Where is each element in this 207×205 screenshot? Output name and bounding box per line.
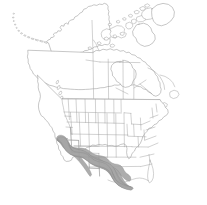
greenland-western-edge bbox=[152, 3, 175, 25]
distribution-map-figure: North America Distribution Map bbox=[0, 0, 207, 205]
north-america-map-svg bbox=[0, 0, 207, 205]
alaska bbox=[47, 3, 111, 57]
aleutian-islands bbox=[12, 13, 47, 43]
